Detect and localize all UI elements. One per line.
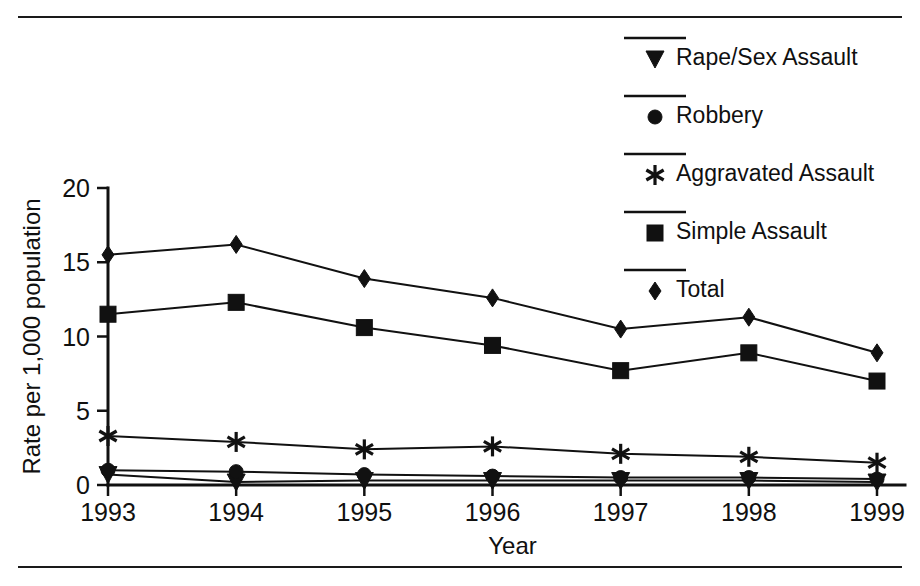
legend-entry-rape-sex-assault[interactable]: Rape/Sex Assault — [624, 38, 858, 70]
marker-circle — [614, 471, 628, 485]
series-robbery — [101, 463, 884, 486]
marker-circle — [101, 463, 115, 477]
marker-diamond — [358, 270, 370, 288]
legend-entry-simple-assault[interactable]: Simple Assault — [624, 212, 827, 244]
marker-diamond — [649, 282, 661, 300]
marker-square — [869, 373, 885, 389]
marker-diamond — [743, 308, 755, 326]
marker-circle — [229, 465, 243, 479]
x-axis-tick-label: 1994 — [208, 498, 264, 526]
chart-legend: Rape/Sex AssaultRobberyAggravated Assaul… — [624, 38, 875, 302]
legend-entry-label: Rape/Sex Assault — [676, 44, 858, 70]
chart-figure: 05101520 1993199419951996199719981999 Ra… — [0, 0, 920, 586]
marker-circle — [742, 471, 756, 485]
line-chart-canvas: 05101520 1993199419951996199719981999 Ra… — [0, 0, 920, 586]
legend-entry-aggravated-assault[interactable]: Aggravated Assault — [624, 154, 875, 186]
y-axis-tick-label: 5 — [76, 397, 90, 425]
series-simple-assault — [100, 294, 885, 389]
legend-entry-label: Aggravated Assault — [676, 160, 875, 186]
marker-square — [613, 363, 629, 379]
legend-entry-label: Total — [676, 276, 725, 302]
x-axis-tick-label: 1996 — [465, 498, 521, 526]
x-axis: 1993199419951996199719981999 — [80, 485, 905, 526]
marker-square — [100, 306, 116, 322]
marker-circle — [486, 469, 500, 483]
y-axis-title: Rate per 1,000 population — [18, 198, 45, 474]
y-axis-tick-label: 10 — [62, 323, 90, 351]
legend-entry-label: Simple Assault — [676, 218, 827, 244]
marker-asterisk — [646, 165, 663, 185]
x-axis-tick-label: 1997 — [593, 498, 649, 526]
x-axis-tick-label: 1993 — [80, 498, 136, 526]
series-aggravated-assault — [99, 426, 885, 473]
x-axis-tick-label: 1998 — [721, 498, 777, 526]
marker-square — [647, 225, 663, 241]
data-series-group — [99, 235, 886, 491]
y-axis-tick-label: 15 — [62, 248, 90, 276]
legend-entry-total[interactable]: Total — [624, 270, 725, 302]
marker-diamond — [487, 289, 499, 307]
marker-square — [356, 320, 372, 336]
marker-diamond — [615, 320, 627, 338]
marker-square — [485, 337, 501, 353]
y-axis-tick-label: 20 — [62, 174, 90, 202]
marker-circle — [357, 468, 371, 482]
legend-entry-robbery[interactable]: Robbery — [624, 96, 763, 128]
marker-square — [741, 345, 757, 361]
marker-diamond — [871, 344, 883, 362]
marker-diamond — [230, 235, 242, 253]
marker-triangle-down — [646, 51, 664, 68]
marker-circle — [648, 110, 662, 124]
y-axis-tick-label: 0 — [76, 471, 90, 499]
x-axis-title: Year — [488, 532, 537, 559]
marker-square — [228, 294, 244, 310]
x-axis-tick-label: 1995 — [337, 498, 393, 526]
x-axis-tick-label: 1999 — [849, 498, 905, 526]
y-axis: 05101520 — [62, 174, 108, 499]
marker-circle — [870, 472, 884, 486]
legend-entry-label: Robbery — [676, 102, 763, 128]
